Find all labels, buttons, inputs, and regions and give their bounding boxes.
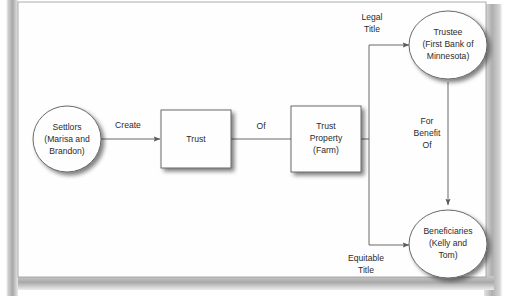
edge-label-title-legal: Title — [364, 24, 380, 34]
edge-label-benefit: Benefit — [414, 128, 441, 138]
edge-label-of-benefit: Of — [422, 140, 432, 150]
edge-label-of: Of — [256, 121, 266, 131]
beneficiaries-line-3: Tom) — [438, 250, 457, 260]
trust-property-line-2: Property — [310, 133, 343, 143]
trustee-line-1: Trustee — [434, 27, 463, 37]
bottom-gutter-shadow — [18, 276, 494, 290]
trustee-line-2: (First Bank of — [422, 39, 474, 49]
settlors-line-3: Brandon) — [49, 146, 84, 156]
trust-line-1: Trust — [186, 134, 206, 144]
settlors-line-2: (Marisa and — [44, 134, 90, 144]
edge-label-for: For — [421, 116, 434, 126]
trust-property-line-3: (Farm) — [313, 145, 339, 155]
settlors-line-1: Settlors — [52, 122, 81, 132]
trust-diagram: Create Of Legal Title Equitable Title Fo… — [0, 0, 510, 296]
beneficiaries-line-1: Beneficiaries — [423, 226, 472, 236]
edge-label-title-equitable: Title — [358, 265, 374, 275]
trustee-line-3: Minnesota) — [427, 51, 470, 61]
edge-label-legal: Legal — [361, 12, 382, 22]
node-trust-text: Trust — [186, 134, 206, 144]
left-gutter-shadow — [6, 0, 18, 296]
edge-label-create: Create — [115, 120, 141, 130]
diagram-canvas: Create Of Legal Title Equitable Title Fo… — [0, 0, 510, 296]
edge-label-equitable: Equitable — [348, 253, 384, 263]
beneficiaries-line-2: (Kelly and — [429, 238, 467, 248]
trust-property-line-1: Trust — [316, 121, 336, 131]
